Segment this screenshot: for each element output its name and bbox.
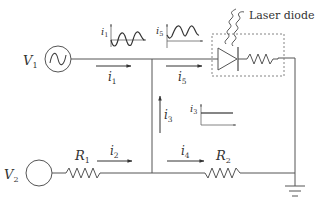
i5-inset-label: i5 [156,25,163,38]
source-v2: V2 [4,160,52,186]
i5-sine-wave [167,26,199,38]
i1-sine-wave [111,32,144,46]
current-i4: i4 [167,144,204,161]
laser-diode-block: Laser diode [212,9,315,76]
i1-label: i1 [108,70,117,86]
i2-label: i2 [110,144,119,160]
i3-inset-label: i3 [190,103,197,116]
i4-label: i4 [181,144,190,160]
ac-sine-icon [50,53,66,64]
v1-label: V1 [23,53,37,70]
wires [52,58,295,186]
i3-label: i3 [164,108,173,124]
light-emission-icon [225,9,236,44]
current-i5: i5 [166,66,202,86]
inset-i3-waveform: i3 [190,103,236,125]
i1-inset-label: i1 [101,26,108,39]
inset-i1-waveform: i1 [101,24,146,47]
laser-resistor-zigzag [238,54,278,64]
r1-label: R1 [74,148,90,165]
resistor-r2: R2 [205,148,240,178]
inset-i5-waveform: i5 [156,24,203,48]
light-emission-icon-2 [232,12,244,46]
diode-triangle-icon [218,48,237,70]
current-i2: i2 [97,144,132,161]
v2-label: V2 [4,167,18,184]
source-v1: V1 [23,46,71,72]
laser-diode-label: Laser diode [249,9,315,22]
resistor-r1: R1 [66,148,100,178]
r1-zigzag [66,168,100,178]
ground-symbol [285,186,305,196]
r2-label: R2 [215,148,231,165]
i5-label: i5 [178,70,187,86]
current-i1: i1 [96,66,131,86]
r2-zigzag [205,168,240,178]
v2-circle [26,160,52,186]
current-i3: i3 [160,96,173,133]
circuit-diagram: V1 V2 R1 R2 Laser diode i1 [0,0,322,209]
